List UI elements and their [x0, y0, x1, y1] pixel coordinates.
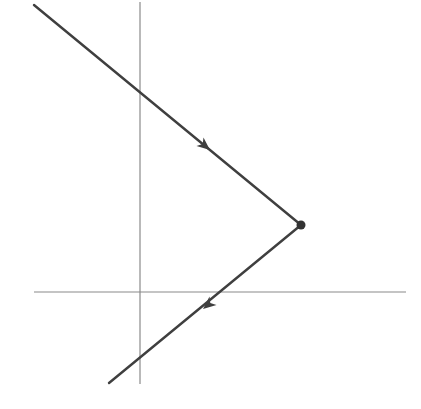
- incoming-ray: [34, 5, 301, 225]
- diagram-canvas: [0, 0, 421, 409]
- reflection-point: [297, 221, 306, 230]
- outgoing-ray: [109, 225, 301, 383]
- ray-diagram: [0, 0, 421, 409]
